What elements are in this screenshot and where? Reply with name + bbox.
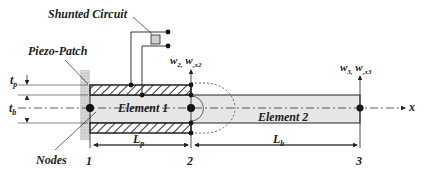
element2-label: Element 2 bbox=[258, 111, 308, 123]
lp-label: Lp bbox=[133, 133, 144, 148]
tb-label: tb bbox=[9, 102, 16, 117]
shunt-resistor bbox=[151, 35, 160, 44]
beam-diagram bbox=[0, 0, 424, 177]
node-number-3: 3 bbox=[356, 155, 362, 167]
shunted-circuit-label: Shunted Circuit bbox=[48, 8, 127, 20]
node-number-1: 1 bbox=[86, 155, 92, 167]
node-number-2: 2 bbox=[187, 155, 193, 167]
w2-label: w2, w,x2 bbox=[170, 55, 201, 69]
w3-label: w3, w,x3 bbox=[340, 62, 371, 76]
tp-label: tp bbox=[10, 74, 17, 89]
piezo-bottom bbox=[90, 123, 191, 133]
element1-label: Element 1 bbox=[118, 102, 168, 114]
piezo-patch-label: Piezo-Patch bbox=[28, 45, 87, 57]
lb-label: Lb bbox=[273, 133, 284, 148]
nodes-label: Nodes bbox=[36, 154, 67, 166]
x-axis-label: x bbox=[409, 101, 415, 113]
node-1 bbox=[86, 104, 94, 112]
